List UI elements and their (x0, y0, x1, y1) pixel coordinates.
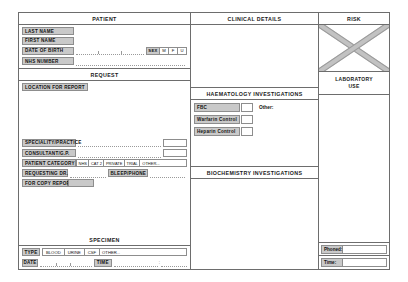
sex-field: SEX M F U (146, 47, 187, 55)
test-fbc-checkbox[interactable] (241, 103, 253, 112)
patient-category-row: PATIENT CATEGORY NHS CAT 2 PRIVATE TRIAL… (22, 159, 187, 167)
consultant-gp-code-box[interactable] (163, 149, 187, 157)
laboratory-use-line-1: LABORATORY (335, 76, 373, 83)
risk-section-header: RISK (319, 13, 389, 25)
request-section-header: REQUEST (19, 69, 190, 81)
date-of-birth-input[interactable] (76, 46, 144, 55)
test-heparin-control-label: Heparin Control (194, 127, 240, 136)
patient-section-header: PATIENT (19, 13, 190, 25)
specimen-type-row: TYPE BLOOD URINE CSF OTHER... (22, 248, 187, 256)
specimen-time-minutes-input[interactable] (161, 258, 187, 267)
specimen-type-label: TYPE (22, 248, 40, 256)
category-option-private[interactable]: PRIVATE (104, 160, 125, 166)
speciality-practice-input[interactable] (78, 138, 161, 147)
last-name-label: LAST NAME (22, 27, 74, 35)
haematology-test-row: Warfarin Control (194, 115, 315, 124)
date-of-birth-label: DATE OF BIRTH (22, 47, 74, 55)
biochemistry-input[interactable] (191, 179, 318, 269)
category-option-other[interactable]: OTHER... (140, 160, 186, 166)
for-copy-report-label: FOR COPY REPORT (22, 179, 68, 187)
sex-option-f[interactable]: F (169, 47, 178, 55)
location-for-report-row: LOCATION FOR REPORT (22, 83, 187, 91)
haematology-test-row: Heparin Control (194, 127, 315, 136)
speciality-practice-row: SPECIALITY/PRACTICE (22, 138, 187, 147)
consultant-gp-input[interactable] (78, 149, 161, 158)
risk-cross-icon (319, 25, 389, 72)
clinical-details-header: CLINICAL DETAILS (191, 13, 318, 25)
specimen-fields: TYPE BLOOD URINE CSF OTHER... DATE TIME … (19, 246, 190, 269)
test-warfarin-control-checkbox[interactable] (241, 115, 253, 124)
speciality-practice-label: SPECIALITY/PRACTICE (22, 139, 76, 147)
for-copy-report-box[interactable] (68, 179, 94, 187)
test-warfarin-control-label: Warfarin Control (194, 115, 240, 124)
consultant-gp-label: CONSULTANT/G.P. (22, 149, 76, 157)
nhs-number-input[interactable] (76, 57, 185, 66)
first-name-label: FIRST NAME (22, 37, 74, 45)
requesting-dr-row: REQUESTING DR. BLEEP/PHONE (22, 169, 187, 178)
haematology-other-label: Other: (259, 105, 273, 110)
date-of-birth-row: DATE OF BIRTH SEX M F U (22, 46, 187, 55)
nhs-number-row: NHS NUMBER (22, 57, 187, 66)
specimen-time-label: TIME (94, 259, 112, 267)
lab-time-row: Time: (319, 256, 389, 269)
specimen-section-header: SPECIMEN (19, 234, 190, 246)
test-fbc-label: FBC (194, 103, 240, 112)
clinical-details-input[interactable] (191, 25, 318, 88)
type-option-urine[interactable]: URINE (65, 249, 85, 255)
type-option-other[interactable]: OTHER... (100, 249, 186, 255)
type-option-csf[interactable]: CSF (85, 249, 100, 255)
lab-time-input[interactable] (343, 258, 387, 267)
patient-category-label: PATIENT CATEGORY (22, 159, 76, 167)
middle-column: CLINICAL DETAILS HAEMATOLOGY INVESTIGATI… (191, 13, 319, 269)
haematology-test-row: FBC Other: (194, 103, 315, 112)
haematology-investigations-header: HAEMATOLOGY INVESTIGATIONS (191, 88, 318, 100)
bleep-phone-input[interactable] (150, 169, 186, 178)
sex-option-u[interactable]: U (178, 47, 187, 55)
haematology-tests: FBC Other: Warfarin Control Heparin Cont… (191, 100, 318, 167)
category-option-nhs[interactable]: NHS (77, 160, 89, 166)
category-option-trial[interactable]: TRIAL (125, 160, 140, 166)
sex-option-m[interactable]: M (160, 47, 169, 55)
specimen-date-time-row: DATE TIME : (22, 258, 187, 267)
biochemistry-investigations-header: BIOCHEMISTRY INVESTIGATIONS (191, 167, 318, 179)
requesting-dr-input[interactable] (70, 169, 106, 178)
left-column: PATIENT LAST NAME FIRST NAME DATE OF BIR… (19, 13, 191, 269)
phoned-input[interactable] (343, 245, 387, 254)
request-fields: LOCATION FOR REPORT SPECIALITY/PRACTICE … (19, 81, 190, 234)
specimen-type-options: BLOOD URINE CSF OTHER... (42, 248, 187, 256)
location-for-report-input[interactable] (22, 93, 187, 139)
specimen-date-label: DATE (22, 259, 38, 267)
laboratory-use-input[interactable] (319, 95, 389, 243)
phoned-row: Phoned: (319, 243, 389, 256)
right-column: RISK LABORATORY USE Phoned: Time: (319, 13, 389, 269)
nhs-number-label: NHS NUMBER (22, 57, 74, 65)
patient-category-options: NHS CAT 2 PRIVATE TRIAL OTHER... (76, 159, 187, 167)
lab-time-label: Time: (321, 258, 343, 267)
phoned-label: Phoned: (321, 245, 343, 254)
patient-fields: LAST NAME FIRST NAME DATE OF BIRTH SEX M… (19, 25, 190, 69)
specimen-date-input[interactable] (40, 258, 92, 267)
category-option-cat2[interactable]: CAT 2 (89, 160, 104, 166)
requesting-dr-label: REQUESTING DR. (22, 169, 68, 177)
last-name-row: LAST NAME (22, 27, 187, 35)
speciality-practice-code-box[interactable] (163, 139, 187, 147)
consultant-gp-row: CONSULTANT/G.P. (22, 149, 187, 158)
specimen-time-hours-input[interactable] (114, 258, 158, 267)
type-option-blood[interactable]: BLOOD (43, 249, 65, 255)
for-copy-report-row: FOR COPY REPORT (22, 179, 187, 187)
for-copy-report-input[interactable] (22, 189, 187, 235)
laboratory-use-line-2: USE (348, 83, 359, 90)
laboratory-use-header: LABORATORY USE (319, 72, 389, 95)
bleep-phone-label: BLEEP/PHONE (108, 169, 148, 177)
first-name-row: FIRST NAME (22, 37, 187, 45)
pathology-request-form: PATIENT LAST NAME FIRST NAME DATE OF BIR… (18, 12, 390, 270)
location-for-report-label: LOCATION FOR REPORT (22, 83, 88, 91)
sex-label: SEX (146, 47, 160, 55)
test-heparin-control-checkbox[interactable] (241, 127, 253, 136)
